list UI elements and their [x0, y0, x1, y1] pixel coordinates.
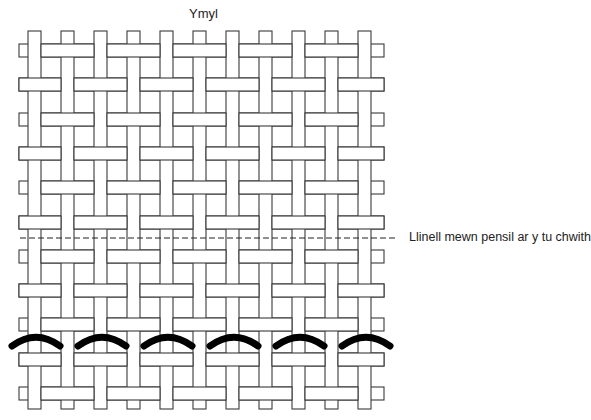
weft-over-segment	[206, 353, 259, 366]
weft-over-segment	[19, 284, 61, 297]
weft-over-segment	[74, 78, 127, 91]
weft-over-segment	[338, 78, 384, 91]
warp-strip	[193, 31, 206, 409]
weft-over-segment	[305, 250, 358, 263]
weft-over-segment	[107, 250, 160, 263]
weft-over-segment	[140, 284, 193, 297]
weft-over-segment	[173, 387, 226, 400]
weft-over-segment	[239, 387, 292, 400]
weft-over-segment	[107, 113, 160, 126]
weft-over-segment	[19, 353, 61, 366]
weft-over-segment	[107, 318, 160, 331]
weft-over-segment	[206, 216, 259, 229]
weft-over-segment	[107, 387, 160, 400]
weft-over-segment	[74, 284, 127, 297]
warp-strip	[61, 31, 74, 409]
warp-strip	[325, 31, 338, 409]
warp-strip	[259, 31, 272, 409]
weft-over-segment	[74, 216, 127, 229]
weft-over-segment	[140, 78, 193, 91]
weft-over-segment	[272, 216, 325, 229]
weft-over-segment	[338, 284, 384, 297]
weft-over-segment	[239, 113, 292, 126]
diagram-title: Ymyl	[189, 6, 218, 21]
weft-over-segment	[173, 318, 226, 331]
pencil-line-label: Llinell mewn pensil ar y tu chwith	[409, 230, 591, 244]
weft-over-segment	[206, 147, 259, 160]
weft-over-segment	[140, 353, 193, 366]
weft-over-segment	[338, 147, 384, 160]
weft-over-segment	[239, 181, 292, 194]
weft-over-segment	[305, 113, 358, 126]
weft-over-segment	[19, 78, 61, 91]
weft-over-segment	[239, 318, 292, 331]
weft-over-segment	[305, 318, 358, 331]
weft-over-segment	[41, 318, 94, 331]
weft-over-segment	[41, 44, 94, 57]
weft-over-segment	[272, 78, 325, 91]
weft-over-segment	[173, 113, 226, 126]
weft-over-segment	[41, 387, 94, 400]
warp-strip	[127, 31, 140, 409]
weft-over-segment	[272, 353, 325, 366]
weft-over-segment	[305, 44, 358, 57]
weft-over-segment	[239, 44, 292, 57]
weft-over-segment	[173, 250, 226, 263]
weft-over-segment	[272, 284, 325, 297]
weft-over-segment	[173, 181, 226, 194]
weft-over-segment	[140, 216, 193, 229]
weft-over-segment	[41, 113, 94, 126]
weft-over-segment	[338, 216, 384, 229]
weft-over-segment	[305, 181, 358, 194]
weft-over-segment	[74, 147, 127, 160]
weft-over-segment	[206, 78, 259, 91]
weft-over-segment	[140, 147, 193, 160]
weft-over-segment	[272, 147, 325, 160]
weft-over-segment	[74, 353, 127, 366]
weft-over-segment	[41, 250, 94, 263]
weft-over-segment	[338, 353, 384, 366]
weft-over-segment	[173, 44, 226, 57]
weft-over-segment	[239, 250, 292, 263]
weft-over-segment	[19, 216, 61, 229]
weft-over-segment	[41, 181, 94, 194]
weft-over-segment	[305, 387, 358, 400]
weft-over-segment	[19, 147, 61, 160]
weft-over-segment	[107, 44, 160, 57]
weft-over-segment	[206, 284, 259, 297]
weft-over-segment	[107, 181, 160, 194]
